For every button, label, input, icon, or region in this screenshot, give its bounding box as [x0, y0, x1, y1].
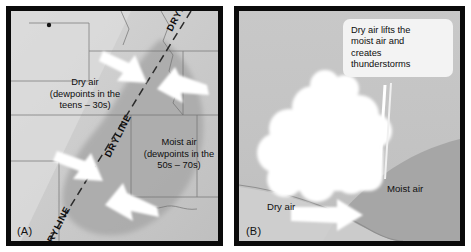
panel-b: Dry air lifts the moist air and creates …: [234, 6, 465, 246]
callout-bubble: Dry air lifts the moist air and creates …: [343, 19, 453, 77]
dry-air-label-panel-a: Dry air (dewpoints in the teens – 30s): [23, 77, 147, 112]
panel-a: DRYLINE DRYLINE DRYLINE Dry air (dewpoin…: [6, 6, 223, 246]
moist-air-label-panel-b: Moist air: [387, 183, 423, 194]
moist-air-label-line2: (dewpoints in the: [127, 149, 218, 161]
callout-line3: creates: [351, 48, 446, 59]
panel-b-letter: (B): [246, 225, 261, 237]
moist-air-label-line3: 50s – 70s): [127, 160, 218, 172]
panel-b-content: Dry air lifts the moist air and creates …: [239, 11, 460, 241]
panel-a-letter: (A): [17, 225, 32, 237]
callout-line2: moist air and: [351, 36, 446, 47]
callout-line1: Dry air lifts the: [351, 25, 446, 36]
dry-air-label-line2: (dewpoints in the: [23, 89, 147, 101]
moist-air-label-panel-a: Moist air (dewpoints in the 50s – 70s): [127, 137, 218, 172]
panel-a-map: [11, 11, 218, 241]
dry-air-label-panel-b: Dry air: [267, 201, 295, 212]
callout-line4: thunderstorms: [351, 59, 446, 70]
dryline-figure: DRYLINE DRYLINE DRYLINE Dry air (dewpoin…: [0, 0, 471, 252]
panel-a-content: DRYLINE DRYLINE DRYLINE Dry air (dewpoin…: [11, 11, 218, 241]
dry-air-label-line3: teens – 30s): [23, 100, 147, 112]
city-marker: [47, 23, 51, 27]
dry-air-label-line1: Dry air: [23, 77, 147, 89]
moist-air-label-line1: Moist air: [127, 137, 218, 149]
